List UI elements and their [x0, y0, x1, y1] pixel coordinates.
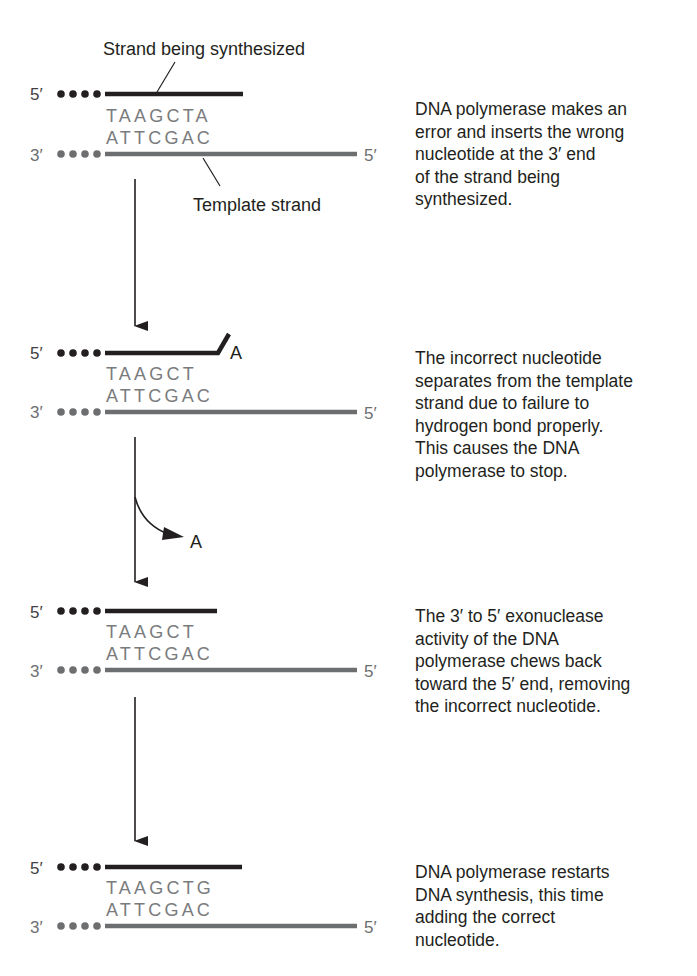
- bottom-sequence: ATTCGAC: [106, 386, 213, 406]
- top-5prime-label: 5′: [30, 859, 43, 878]
- description-line: polymerase to stop.: [415, 460, 690, 483]
- step-3-duplex: 5′ TAAGCT ATTCGAC 3′ 5′: [30, 603, 377, 681]
- template-strand-label: Template strand: [193, 195, 321, 215]
- description-line: separates from the template: [415, 370, 690, 393]
- bottom-dots: [57, 408, 101, 416]
- description-line: adding the correct: [415, 906, 690, 929]
- description-line: DNA polymerase makes an: [415, 98, 690, 121]
- top-sequence: TAAGCT: [106, 364, 197, 384]
- bottom-5prime-label: 5′: [364, 146, 377, 165]
- description-line: polymerase chews back: [415, 650, 690, 673]
- description-line: error and inserts the wrong: [415, 121, 690, 144]
- top-sequence: TAAGCTA: [106, 106, 211, 126]
- description-line: synthesized.: [415, 188, 690, 211]
- description-line: toward the 5′ end, removing: [415, 673, 690, 696]
- step-4-duplex: 5′ TAAGCTG ATTCGAC 3′ 5′: [30, 859, 377, 937]
- step-1-duplex: Strand being synthesized 5′ TAAGCTA ATTC…: [30, 39, 377, 215]
- top-dots: [57, 90, 101, 98]
- description-line: nucleotide.: [415, 929, 690, 952]
- bottom-3prime-label: 3′: [30, 403, 43, 422]
- bottom-dots: [57, 666, 101, 674]
- description-line: the incorrect nucleotide.: [415, 695, 690, 718]
- top-dots: [57, 863, 101, 871]
- removed-nucleotide-label: A: [190, 532, 202, 552]
- bottom-5prime-label: 5′: [364, 918, 377, 937]
- top-sequence: TAAGCTG: [106, 878, 214, 898]
- bottom-sequence: ATTCGAC: [106, 644, 213, 664]
- description-line: This causes the DNA: [415, 437, 690, 460]
- description-line: nucleotide at the 3′ end: [415, 143, 690, 166]
- top-dots: [57, 349, 101, 357]
- bottom-sequence: ATTCGAC: [106, 128, 213, 148]
- bottom-3prime-label: 3′: [30, 146, 43, 165]
- bottom-dots: [57, 922, 101, 930]
- description-line: The incorrect nucleotide: [415, 347, 690, 370]
- bottom-dots: [57, 150, 101, 158]
- bottom-5prime-label: 5′: [364, 404, 377, 423]
- description-line: strand due to failure to: [415, 392, 690, 415]
- bottom-3prime-label: 3′: [30, 662, 43, 681]
- bottom-5prime-label: 5′: [364, 662, 377, 681]
- step-1-description: DNA polymerase makes an error and insert…: [415, 98, 690, 211]
- top-5prime-label: 5′: [30, 603, 43, 622]
- description-line: DNA synthesis, this time: [415, 884, 690, 907]
- step-2-description: The incorrect nucleotide separates from …: [415, 347, 690, 482]
- synth-strand-with-mismatch-kink: [105, 334, 229, 353]
- description-line: activity of the DNA: [415, 628, 690, 651]
- bottom-3prime-label: 3′: [30, 918, 43, 937]
- synth-strand-leader-line: [157, 62, 175, 92]
- top-5prime-label: 5′: [30, 85, 43, 104]
- description-line: DNA polymerase restarts: [415, 861, 690, 884]
- step-4-description: DNA polymerase restarts DNA synthesis, t…: [415, 861, 690, 951]
- bottom-sequence: ATTCGAC: [106, 900, 213, 920]
- description-line: of the strand being: [415, 166, 690, 189]
- excision-branch-arrow: [135, 497, 184, 540]
- top-5prime-label: 5′: [30, 344, 43, 363]
- top-sequence: TAAGCT: [106, 622, 197, 642]
- flipped-out-base: A: [230, 343, 242, 363]
- description-line: The 3′ to 5′ exonuclease: [415, 605, 690, 628]
- synth-strand-label: Strand being synthesized: [103, 39, 305, 59]
- step-2-duplex: 5′ A TAAGCT ATTCGAC 3′ 5′: [30, 334, 377, 423]
- step-3-description: The 3′ to 5′ exonuclease activity of the…: [415, 605, 690, 718]
- top-dots: [57, 607, 101, 615]
- template-strand-leader-line: [203, 158, 220, 186]
- description-line: hydrogen bond properly.: [415, 415, 690, 438]
